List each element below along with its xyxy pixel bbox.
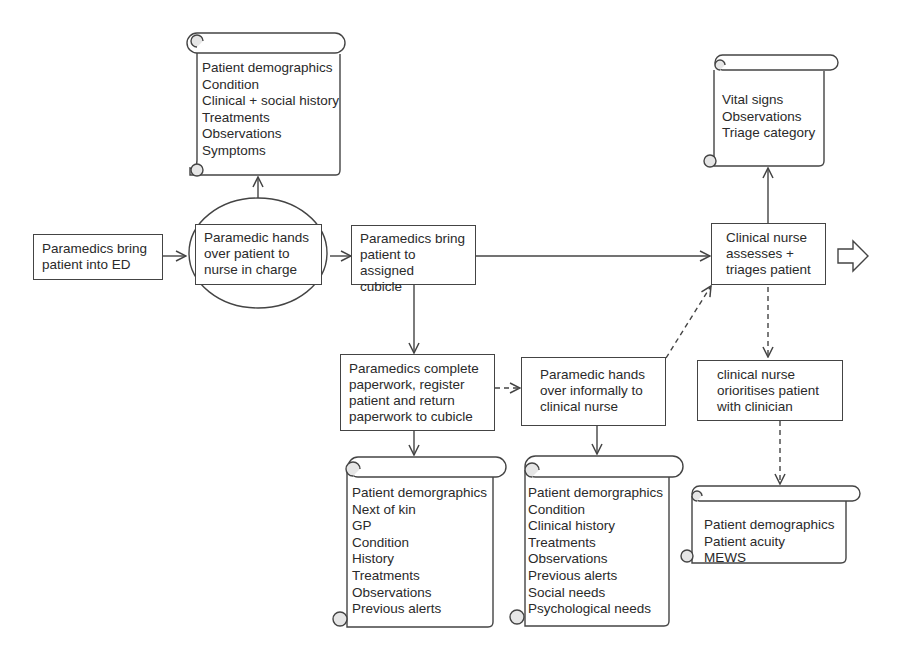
node-label-line: Paramedic hands bbox=[204, 230, 313, 246]
node-label-line: patient and return bbox=[349, 393, 486, 409]
node-label-line: nurse in charge bbox=[204, 262, 313, 278]
node-label-line: over informally to bbox=[540, 383, 657, 399]
document-item: Patient demographics bbox=[704, 517, 835, 534]
process-diagram: Paramedics bring patient into ED Paramed… bbox=[0, 0, 901, 661]
node-label-line: Paramedics complete bbox=[349, 361, 486, 377]
document-item: Psychological needs bbox=[528, 601, 663, 618]
node-prioritise: clinical nurse orioritises patient with … bbox=[697, 360, 843, 421]
document-item: Observations bbox=[528, 551, 663, 568]
document-item: Condition bbox=[202, 77, 339, 94]
node-label-line: with clinician bbox=[717, 399, 834, 415]
document-item: Patient demorgraphics bbox=[528, 485, 663, 502]
node-label-line: clinical nurse bbox=[540, 399, 657, 415]
node-assess-triage: Clinical nurse assesses + triages patien… bbox=[711, 223, 826, 285]
document-item: Treatments bbox=[528, 535, 663, 552]
node-label-line: Paramedic hands bbox=[540, 367, 657, 383]
document-item: Observations bbox=[202, 126, 339, 143]
continue-arrow-icon bbox=[838, 241, 868, 271]
document-item: Condition bbox=[352, 535, 487, 552]
document-item: Patient demorgraphics bbox=[352, 485, 487, 502]
document-item: Symptoms bbox=[202, 143, 339, 160]
document-item: History bbox=[352, 551, 487, 568]
document-item: Patient demographics bbox=[202, 60, 339, 77]
node-complete-paperwork: Paramedics complete paperwork, register … bbox=[340, 354, 495, 431]
document-item: Clinical + social history bbox=[202, 93, 339, 110]
node-label-line: orioritises patient bbox=[717, 383, 834, 399]
node-bring-into-ed: Paramedics bring patient into ED bbox=[33, 234, 163, 280]
node-label-line: cubicle bbox=[360, 279, 467, 295]
node-label-line: assesses + bbox=[726, 246, 817, 262]
node-label-line: Paramedics bring bbox=[42, 241, 154, 257]
document-item: Vital signs bbox=[722, 92, 815, 109]
document-item: Observations bbox=[352, 585, 487, 602]
document-item: Next of kin bbox=[352, 502, 487, 519]
node-informal-handover: Paramedic hands over informally to clini… bbox=[521, 357, 666, 426]
node-label-line: paperwork to cubicle bbox=[349, 409, 486, 425]
document-item: Treatments bbox=[352, 568, 487, 585]
node-bring-to-cubicle: Paramedics bring patient to assigned cub… bbox=[351, 225, 476, 285]
edges bbox=[163, 168, 780, 484]
document-priority-info: Patient demographics Patient acuity MEWS bbox=[704, 517, 835, 567]
node-label-line: Clinical nurse bbox=[726, 230, 817, 246]
document-item: Treatments bbox=[202, 110, 339, 127]
node-label-line: patient to assigned bbox=[360, 247, 467, 279]
document-item: Condition bbox=[528, 502, 663, 519]
node-label-line: paperwork, register bbox=[349, 377, 486, 393]
node-label-line: clinical nurse bbox=[717, 367, 834, 383]
document-item: Observations bbox=[722, 109, 815, 126]
document-item: Previous alerts bbox=[352, 601, 487, 618]
document-item: MEWS bbox=[704, 550, 835, 567]
document-item: Social needs bbox=[528, 585, 663, 602]
document-item: GP bbox=[352, 518, 487, 535]
document-item: Previous alerts bbox=[528, 568, 663, 585]
edge-informal-to-triage bbox=[666, 286, 711, 358]
document-item: Triage category bbox=[722, 125, 815, 142]
document-item: Patient acuity bbox=[704, 534, 835, 551]
node-label-line: Paramedics bring bbox=[360, 231, 467, 247]
document-informal-info: Patient demorgraphics Condition Clinical… bbox=[528, 485, 663, 618]
document-item: Clinical history bbox=[528, 518, 663, 535]
document-paperwork-info: Patient demorgraphics Next of kin GP Con… bbox=[352, 485, 487, 618]
node-label-line: triages patient bbox=[726, 262, 817, 278]
node-label-line: over patient to bbox=[204, 246, 313, 262]
node-label-line: patient into ED bbox=[42, 257, 154, 273]
node-handover-nic: Paramedic hands over patient to nurse in… bbox=[195, 224, 322, 285]
document-triage-info: Vital signs Observations Triage category bbox=[722, 92, 815, 142]
document-handover-info: Patient demographics Condition Clinical … bbox=[202, 60, 339, 160]
